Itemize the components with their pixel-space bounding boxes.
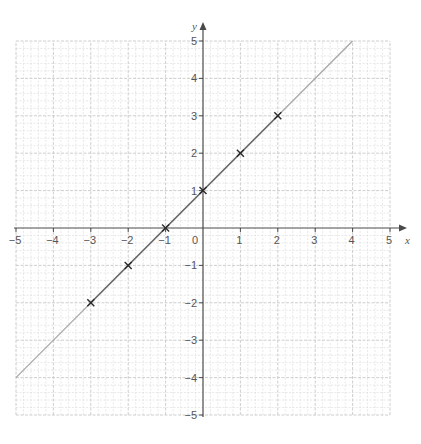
y-tick-label: −4 [184,372,197,384]
x-tick-label: 3 [311,234,317,246]
y-tick-label: 2 [191,147,197,159]
y-tick-label: 5 [191,35,197,47]
x-tick-label: −1 [158,234,171,246]
x-tick-label: 5 [386,234,392,246]
y-axis-arrow-icon [200,22,207,30]
y-axis-label: y [191,20,197,32]
x-tick-label: −3 [84,234,97,246]
y-tick-label: 4 [191,72,197,84]
y-tick-label: −3 [184,334,197,346]
y-tick-label: −5 [184,409,197,421]
x-tick-label: −5 [9,234,22,246]
x-tick-label: 2 [274,234,280,246]
x-tick-label: −4 [46,234,59,246]
x-tick-label: 0 [192,234,198,246]
x-axis-arrow-icon [399,225,407,232]
x-tick-label: 1 [236,234,242,246]
coordinate-plane: −5−4−3−2−1012345−5−4−3−2−112345 x y [0,0,421,444]
x-tick-label: −2 [121,234,134,246]
line-plotted-segment [91,116,278,303]
y-tick-label: −2 [184,297,197,309]
y-tick-label: −1 [184,259,197,271]
line-series [16,41,353,378]
x-tick-label: 4 [349,234,355,246]
x-axis-label: x [404,234,410,246]
y-tick-label: 1 [191,185,197,197]
y-tick-label: 3 [191,110,197,122]
